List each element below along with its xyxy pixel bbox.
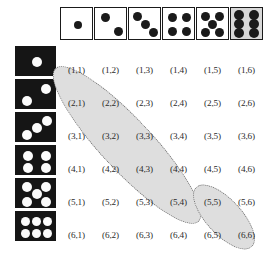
pip [101,13,110,22]
grid-cell: (2,5) [196,99,229,108]
pip [42,116,52,126]
grid-cell: (1,1) [60,66,93,75]
pip [23,151,33,161]
grid-cell: (5,4) [162,198,195,207]
grid-cell: (6,3) [128,231,161,240]
pip [182,27,191,36]
grid-cell: (4,6) [230,165,263,174]
pip [22,96,32,106]
grid-cell: (2,4) [162,99,195,108]
column-header-die-6 [230,7,263,40]
pip [43,217,52,226]
column-header-die-5 [196,7,229,40]
row-header-die-1 [15,46,56,76]
pip [41,163,51,173]
pip [201,12,210,21]
pip [22,197,32,207]
row-header-die-3 [15,112,56,142]
pip [41,84,51,94]
grid-cell: (6,5) [196,231,229,240]
grid-cell: (3,2) [94,132,127,141]
column-header-die-3 [128,7,161,40]
column-header-die-2 [94,7,127,40]
pip [22,182,32,192]
grid-cell: (6,6) [230,231,263,240]
grid-cell: (5,2) [94,198,127,207]
grid-cell: (1,5) [196,66,229,75]
pip [168,13,177,22]
pip [149,28,158,37]
row-header-die-6 [15,211,56,241]
grid-cell: (6,2) [94,231,127,240]
grid-cell: (1,4) [162,66,195,75]
pip [32,57,42,67]
pip [201,28,210,37]
pip [23,163,33,173]
grid-cell: (5,3) [128,198,161,207]
pip [208,20,217,29]
column-header-die-1 [60,7,93,40]
grid-cell: (5,5) [196,198,229,207]
pip [41,197,51,207]
pip [21,229,30,238]
grid-cell: (3,3) [128,132,161,141]
pip [21,217,30,226]
grid-cell: (3,5) [196,132,229,141]
grid-cell: (1,3) [128,66,161,75]
pip [41,182,51,192]
row-header-die-5 [15,178,56,208]
pip [182,13,191,22]
pip [168,27,177,36]
grid-cell: (1,2) [94,66,127,75]
grid-cell: (6,4) [162,231,195,240]
sample-space-figure: (1,1) (1,2) (1,3) (1,4) (1,5) (1,6) (2,1… [0,0,267,256]
grid-cell: (5,6) [230,198,263,207]
grid-cell: (3,6) [230,132,263,141]
highlight-sum-seven [36,50,217,239]
grid-cell: (1,6) [230,66,263,75]
grid-cell: (4,1) [60,165,93,174]
grid-cell: (5,1) [60,198,93,207]
pip [41,151,51,161]
pip [32,229,41,238]
pip [74,21,82,29]
grid-cell: (4,5) [196,165,229,174]
pip [133,12,142,21]
grid-cell: (2,2) [94,99,127,108]
pip [43,229,52,238]
grid-cell: (3,1) [60,132,93,141]
pip [249,28,259,38]
grid-cell: (2,6) [230,99,263,108]
pip [114,27,123,36]
grid-cell: (6,1) [60,231,93,240]
grid-cell: (4,2) [94,165,127,174]
grid-cell: (3,4) [162,132,195,141]
pip [32,123,42,133]
row-header-die-4 [15,145,56,175]
grid-cell: (4,4) [162,165,195,174]
pip [215,28,224,37]
pip [32,217,41,226]
pip [32,189,42,199]
pip [141,20,150,29]
column-header-die-4 [162,7,195,40]
pip [215,12,224,21]
row-header-die-2 [15,79,56,109]
grid-cell: (2,1) [60,99,93,108]
pip [22,130,32,140]
grid-cell: (4,3) [128,165,161,174]
pip [234,28,244,38]
grid-cell: (2,3) [128,99,161,108]
